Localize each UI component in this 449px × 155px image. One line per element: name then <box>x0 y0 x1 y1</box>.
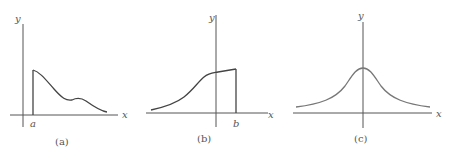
panel-b: y x b (b) <box>146 12 274 144</box>
panel-b-caption: (b) <box>197 133 211 144</box>
panel-a-marker-label: a <box>30 118 36 129</box>
panel-a-x-label: x <box>122 109 128 120</box>
panel-b-x-label: x <box>268 109 274 120</box>
panel-c-y-label: y <box>357 10 364 21</box>
panel-c-caption: (c) <box>354 133 368 144</box>
panel-c-x-label: x <box>436 108 442 119</box>
panel-a-curve <box>33 70 107 112</box>
panel-a-caption: (a) <box>55 136 69 147</box>
figure-canvas: y x a (a) y x b (b) y x (c) <box>0 0 449 155</box>
panel-b-curve <box>151 69 236 110</box>
panel-a-y-label: y <box>14 13 21 24</box>
panel-a: y x a (a) <box>10 13 128 147</box>
panel-b-y-label: y <box>208 12 215 23</box>
panel-b-marker-label: b <box>233 118 239 129</box>
panel-c: y x (c) <box>293 10 442 144</box>
